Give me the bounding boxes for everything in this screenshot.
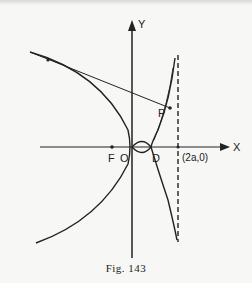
cissoid-inner-curve <box>154 68 173 140</box>
point-p <box>168 106 172 110</box>
point-d-label: D <box>152 152 160 164</box>
focus-label: F <box>108 152 115 164</box>
figure-diagram: Y X F O D P (2a,0) <box>0 0 252 283</box>
figure-caption: Fig. 143 <box>0 262 252 274</box>
focus-point <box>110 145 114 149</box>
x-axis-arrow-icon <box>220 143 230 151</box>
tangent-line <box>30 52 170 108</box>
tangent-point <box>46 58 49 61</box>
point-p-label: P <box>158 107 165 119</box>
asymptote-point-label: (2a,0) <box>182 152 208 163</box>
asymptote-point <box>177 146 180 149</box>
cissoid-curve <box>151 58 177 240</box>
origin-label: O <box>120 152 129 164</box>
x-axis-label: X <box>233 141 241 153</box>
y-axis-label: Y <box>138 18 146 30</box>
y-axis-arrow-icon <box>128 20 136 31</box>
